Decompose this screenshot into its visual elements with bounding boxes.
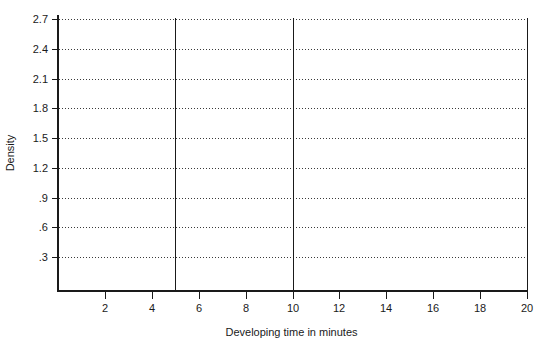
vertical-reference-line bbox=[293, 18, 294, 290]
y-tick-label: 1.2 bbox=[8, 163, 48, 174]
x-tick-mark bbox=[480, 292, 481, 299]
y-tick-label: 1.8 bbox=[8, 103, 48, 114]
x-tick-label: 6 bbox=[184, 302, 214, 314]
y-tick-mark bbox=[52, 19, 57, 20]
y-tick-label: 1.5 bbox=[8, 133, 48, 144]
chart-figure: Density Developing time in minutes .3.6.… bbox=[0, 0, 543, 347]
y-tick-mark bbox=[52, 138, 57, 139]
x-tick-mark bbox=[246, 292, 247, 299]
x-tick-mark bbox=[433, 292, 434, 299]
y-tick-label: 2.4 bbox=[8, 44, 48, 55]
y-tick-label: 2.1 bbox=[8, 74, 48, 85]
x-tick-mark bbox=[339, 292, 340, 299]
x-tick-label: 4 bbox=[137, 302, 167, 314]
y-tick-mark bbox=[52, 227, 57, 228]
x-tick-mark bbox=[199, 292, 200, 299]
vertical-reference-line bbox=[527, 18, 528, 290]
vertical-reference-line bbox=[175, 18, 176, 290]
x-tick-label: 14 bbox=[371, 302, 401, 314]
y-tick-label: .9 bbox=[8, 193, 48, 204]
y-tick-mark bbox=[52, 108, 57, 109]
x-tick-label: 10 bbox=[278, 302, 308, 314]
x-tick-mark bbox=[152, 292, 153, 299]
x-tick-label: 2 bbox=[90, 302, 120, 314]
y-tick-mark bbox=[52, 257, 57, 258]
x-tick-label: 18 bbox=[465, 302, 495, 314]
x-tick-mark bbox=[293, 292, 294, 299]
y-tick-label: 2.7 bbox=[8, 14, 48, 25]
x-tick-label: 8 bbox=[231, 302, 261, 314]
x-tick-mark bbox=[105, 292, 106, 299]
x-tick-label: 12 bbox=[324, 302, 354, 314]
y-tick-mark bbox=[52, 168, 57, 169]
x-axis-title: Developing time in minutes bbox=[57, 326, 526, 338]
y-tick-label: .6 bbox=[8, 222, 48, 233]
x-tick-mark bbox=[527, 292, 528, 299]
x-tick-mark bbox=[386, 292, 387, 299]
y-tick-mark bbox=[52, 49, 57, 50]
plot-area bbox=[57, 15, 528, 292]
y-tick-mark bbox=[52, 198, 57, 199]
x-tick-label: 16 bbox=[418, 302, 448, 314]
x-tick-label: 20 bbox=[512, 302, 542, 314]
y-tick-mark bbox=[52, 79, 57, 80]
y-tick-label: .3 bbox=[8, 252, 48, 263]
